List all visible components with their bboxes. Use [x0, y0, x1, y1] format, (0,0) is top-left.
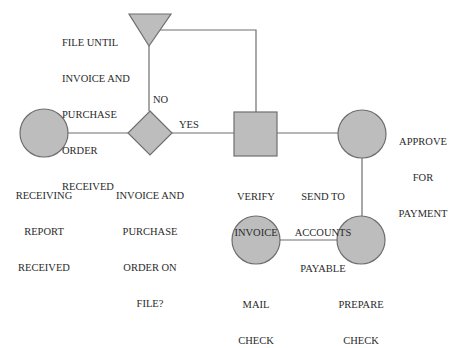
yes-edge-label: YES [179, 119, 199, 131]
decision-diamond [128, 111, 172, 155]
decision-label: INVOICE AND PURCHASE ORDER ON FILE? [110, 166, 190, 322]
prepare-check-label: PREPARE CHECK [326, 275, 396, 348]
no-edge-label: NO [153, 94, 168, 106]
mail-check-label: MAIL CHECK [221, 275, 291, 348]
approve-payment-label: APPROVE FOR PAYMENT [388, 112, 458, 232]
edge-triangle-to-verify [160, 30, 256, 112]
verify-invoice-label: VERIFY INVOICE [226, 167, 286, 251]
receiving-report-circle [20, 109, 68, 157]
receiving-report-label: RECEIVING REPORT RECEIVED [4, 166, 84, 286]
approve-payment-circle [338, 110, 386, 158]
verify-invoice-square [234, 112, 277, 156]
send-to-ap-label: SEND TO ACCOUNTS PAYABLE [288, 167, 358, 287]
